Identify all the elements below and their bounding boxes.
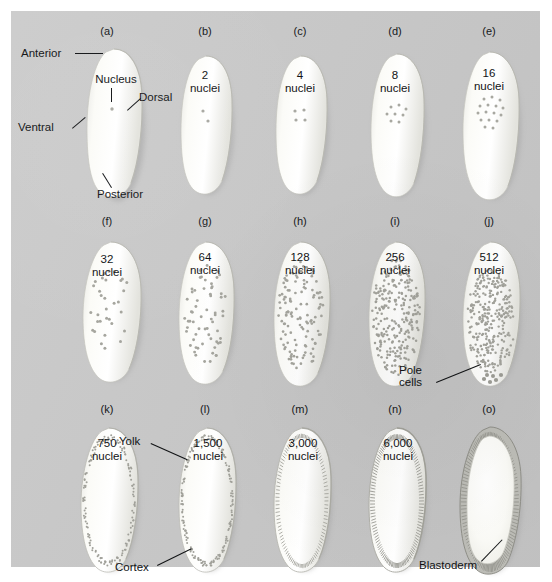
count-c-word: nuclei — [260, 82, 340, 95]
count-l-value: 1,500 — [167, 437, 249, 450]
label-cortex: Cortex — [115, 561, 149, 574]
panel-letter-j: (j) — [469, 215, 509, 227]
label-blastoderm: Blastoderm — [419, 559, 477, 572]
count-f-word: nuclei — [65, 266, 149, 279]
label-posterior: Posterior — [97, 188, 143, 201]
count-g-value: 64 — [165, 251, 245, 264]
panel-h: (h) 128 nuclei — [252, 215, 348, 395]
label-ventral: Ventral — [18, 121, 54, 134]
panel-letter-m: (m) — [280, 403, 320, 415]
embryo-a — [81, 43, 151, 203]
panel-letter-o: (o) — [469, 403, 509, 415]
panel-letter-b: (b) — [185, 25, 225, 37]
panel-letter-e: (e) — [469, 25, 509, 37]
panel-letter-k: (k) — [87, 403, 127, 415]
panel-letter-g: (g) — [185, 215, 225, 227]
count-h-value: 128 — [260, 251, 340, 264]
panel-n: (n) 6,000 nuclei — [347, 403, 447, 582]
count-i-word: nuclei — [355, 264, 435, 277]
panel-o: (o) Blastoderm — [441, 403, 541, 582]
panel-letter-h: (h) — [280, 215, 320, 227]
count-b-value: 2 — [165, 69, 245, 82]
count-b-word: nuclei — [165, 82, 245, 95]
panel-letter-a: (a) — [87, 25, 127, 37]
panel-letter-n: (n) — [375, 403, 415, 415]
panel-c: (c) 4 nuclei — [252, 25, 348, 210]
count-j-word: nuclei — [449, 264, 529, 277]
count-i-value: 256 — [355, 251, 435, 264]
panel-f: (f) 32 nuclei — [59, 215, 167, 395]
count-k-word: nuclei — [67, 450, 147, 463]
label-pole-cells-line2: cells — [399, 376, 422, 389]
label-yolk: Yolk — [119, 435, 140, 448]
embryo-o — [455, 423, 531, 577]
panel-a: (a) Anterior Nucleus Dorsal Ventral Post… — [59, 25, 169, 210]
panel-i: (i) 256 nuclei — [347, 215, 443, 395]
panel-letter-f: (f) — [87, 215, 127, 227]
panel-b: (b) 2 nuclei — [157, 25, 253, 210]
panel-l: (l) 1,500 nuclei Yolk Cortex — [157, 403, 257, 582]
count-h-word: nuclei — [260, 264, 340, 277]
count-m-word: nuclei — [262, 450, 344, 463]
panel-m: (m) 3,000 nuclei — [252, 403, 352, 582]
label-nucleus: Nucleus — [70, 73, 162, 86]
count-g-word: nuclei — [165, 264, 245, 277]
panel-d: (d) 8 nuclei — [347, 25, 443, 210]
count-n-word: nuclei — [357, 450, 439, 463]
panel-letter-d: (d) — [375, 25, 415, 37]
leader-nucleus — [111, 88, 112, 102]
count-e-value: 16 — [449, 67, 529, 80]
panel-k: (k) 750 nuclei — [59, 403, 159, 582]
count-d-word: nuclei — [355, 82, 435, 95]
count-m-value: 3,000 — [262, 437, 344, 450]
count-n-value: 6,000 — [357, 437, 439, 450]
panel-letter-i: (i) — [375, 215, 415, 227]
panel-letter-c: (c) — [280, 25, 320, 37]
label-anterior: Anterior — [21, 47, 61, 60]
panel-g: (g) 64 nuclei — [157, 215, 253, 395]
count-d-value: 8 — [355, 69, 435, 82]
count-j-value: 512 — [449, 251, 529, 264]
count-c-value: 4 — [260, 69, 340, 82]
label-pole-cells-line1: Pole — [399, 364, 422, 377]
panel-e: (e) 16 nuclei — [441, 25, 537, 210]
count-e-word: nuclei — [449, 80, 529, 93]
figure-plate: (a) Anterior Nucleus Dorsal Ventral Post… — [11, 11, 540, 567]
panel-letter-l: (l) — [185, 403, 225, 415]
panel-j: (j) 512 nuclei Pole cells — [441, 215, 541, 395]
count-f-value: 32 — [65, 253, 149, 266]
leader-anterior — [75, 53, 103, 54]
